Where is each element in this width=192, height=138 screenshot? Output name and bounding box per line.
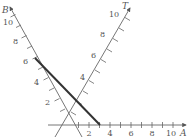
a-label-8: 8	[150, 129, 155, 138]
b-label-2: 2	[45, 98, 50, 107]
b-axis-labels: 2 4 6 8 10 B	[1, 5, 50, 107]
a-label-10: 10	[166, 129, 176, 138]
t-label-8: 8	[100, 30, 105, 39]
a-label-2: 2	[87, 129, 92, 138]
a-axis-labels: 2 4 6 8 10 A	[87, 128, 188, 138]
b-label-10: 10	[3, 18, 13, 27]
a-label-6: 6	[129, 129, 134, 138]
t-axis-labels: 4 6 8 10 T	[80, 1, 129, 82]
b-label-8: 8	[13, 37, 18, 46]
b-label-4: 4	[34, 78, 39, 87]
a-axis-name: A	[179, 128, 187, 138]
a-label-4: 4	[108, 129, 113, 138]
t-label-6: 6	[91, 51, 96, 60]
axes-diagram: 2 4 6 8 10 A 2 4 6 8 10 B 4 6 8 10 T	[0, 0, 192, 138]
b-label-6: 6	[23, 57, 28, 66]
a-axis	[48, 122, 186, 128]
t-label-4: 4	[80, 73, 85, 82]
b-axis	[10, 7, 82, 137]
t-axis-name: T	[122, 1, 129, 11]
t-label-10: 10	[109, 10, 119, 19]
b-axis-name: B	[1, 5, 9, 15]
